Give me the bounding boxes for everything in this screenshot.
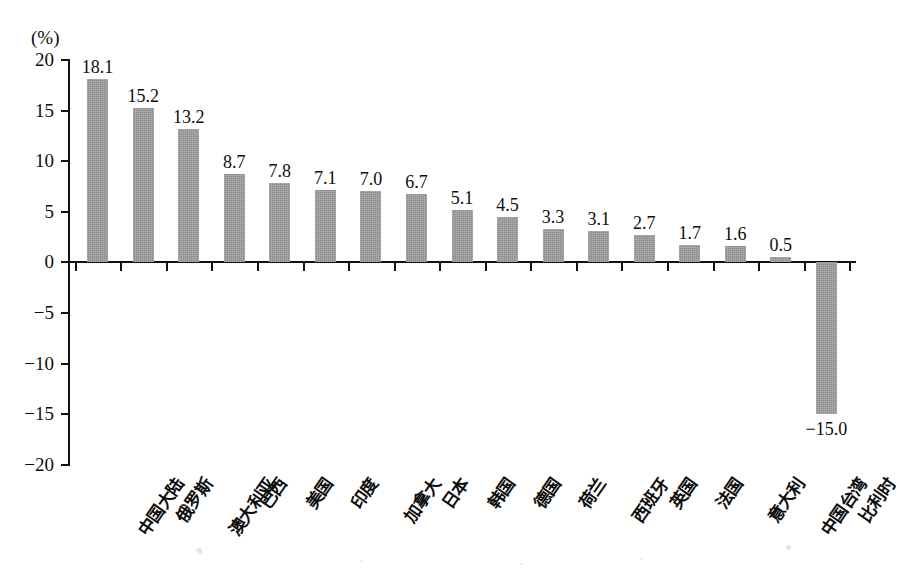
bar: [588, 231, 609, 262]
bar: [452, 210, 473, 262]
x-axis-tick: [576, 263, 578, 271]
y-axis-tick: [61, 110, 70, 112]
y-axis-tick: [61, 211, 70, 213]
bar: [679, 245, 700, 262]
y-axis-tick: [61, 312, 70, 314]
y-axis-tick: [61, 413, 70, 415]
scan-artifact: [640, 558, 643, 560]
y-axis-tick-label: 20: [0, 50, 54, 69]
x-axis-tick: [439, 263, 441, 271]
x-axis-tick: [75, 263, 77, 271]
x-axis-tick: [303, 263, 305, 271]
bar: [315, 190, 336, 262]
x-axis-tick: [485, 263, 487, 271]
y-axis-tick-label: 0: [0, 252, 54, 271]
bar-value-label: −15.0: [794, 420, 858, 438]
bar: [87, 79, 108, 262]
bar: [543, 229, 564, 262]
y-axis-unit-label: (%): [31, 27, 59, 49]
category-label: 日本: [440, 475, 473, 512]
x-axis-tick: [394, 263, 396, 271]
x-axis-tick: [257, 263, 259, 271]
y-axis-tick-label: 10: [0, 151, 54, 170]
x-axis-tick: [120, 263, 122, 271]
x-axis-tick: [621, 263, 623, 271]
bar: [224, 174, 245, 262]
bar-value-label: 0.5: [749, 236, 813, 254]
scan-artifact: [520, 563, 523, 565]
x-axis-tick: [530, 263, 532, 271]
y-axis-tick: [61, 464, 70, 466]
x-axis-tick: [211, 263, 213, 271]
bar: [497, 217, 518, 262]
category-label: 法国: [713, 475, 746, 512]
bar-value-label: 13.2: [157, 108, 221, 126]
bar-value-label: 15.2: [111, 87, 175, 105]
scan-artifact: [360, 560, 363, 562]
category-label: 荷兰: [576, 475, 609, 512]
x-axis-tick: [348, 263, 350, 271]
bar: [133, 108, 154, 262]
category-label: 韩国: [485, 475, 518, 512]
category-label: 英国: [667, 475, 700, 512]
bar: [178, 129, 199, 262]
scan-artifact: [786, 545, 791, 550]
category-label: 美国: [303, 475, 336, 512]
x-axis-tick: [166, 263, 168, 271]
y-axis-tick: [61, 160, 70, 162]
y-axis-tick-label: 15: [0, 101, 54, 120]
y-axis-tick-label: 5: [0, 202, 54, 221]
y-axis-tick-label: −20: [0, 455, 54, 474]
y-axis-tick-label: −10: [0, 354, 54, 373]
bar: [634, 235, 655, 262]
category-label: 印度: [348, 475, 381, 512]
category-label: 德国: [531, 475, 564, 512]
y-axis-tick-label: −15: [0, 404, 54, 423]
bar-value-label: 18.1: [66, 58, 130, 76]
bar: [360, 191, 381, 262]
x-axis-tick: [758, 263, 760, 271]
category-label: 意大利: [765, 475, 807, 525]
x-axis-tick: [804, 263, 806, 271]
bar: [816, 262, 837, 414]
bar: [770, 257, 791, 262]
bar: [269, 183, 290, 262]
bar: [725, 246, 746, 262]
y-axis-tick: [61, 363, 70, 365]
x-axis-tick: [713, 263, 715, 271]
y-axis-tick-label: −5: [0, 303, 54, 322]
x-axis-tick: [667, 263, 669, 271]
scan-artifact: [198, 551, 203, 554]
x-axis-tick: [849, 263, 851, 271]
bar: [406, 194, 427, 262]
